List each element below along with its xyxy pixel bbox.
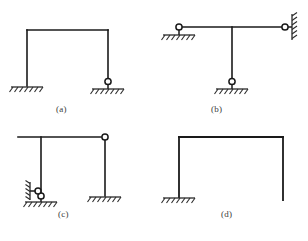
panel-label-a: (a) <box>56 104 67 114</box>
fixed-support-left <box>162 198 196 203</box>
panel-label-b: (b) <box>211 104 222 114</box>
panel-label-d: (d) <box>221 209 232 219</box>
hinge-circle <box>229 78 235 84</box>
fixed-support-right <box>88 197 122 202</box>
pinned-support-right <box>91 78 125 94</box>
pinned-support-bottom <box>215 78 249 94</box>
panel-c <box>18 134 121 207</box>
panel-d <box>162 137 284 203</box>
panel-b-members <box>182 27 282 78</box>
internal-hinge-top-right <box>102 134 108 140</box>
panel-label-c: (c) <box>58 209 69 219</box>
panel-b <box>162 13 298 95</box>
panel-c-members <box>18 137 105 196</box>
fixed-support-left <box>10 87 44 92</box>
hinge-circle <box>105 78 111 84</box>
hinge-circle <box>102 134 108 140</box>
hinge-circle <box>176 24 182 30</box>
hinge-circle <box>35 188 41 194</box>
structural-frames-figure: (a) (b) (c) (d) <box>0 0 308 241</box>
frames-drawing <box>0 0 308 241</box>
panel-d-members <box>179 137 283 200</box>
panel-a-members <box>27 30 108 86</box>
hinge-circle <box>282 24 288 30</box>
pinned-support-right-wall <box>282 13 297 41</box>
panel-a <box>10 30 125 94</box>
figure-caption <box>0 234 308 241</box>
